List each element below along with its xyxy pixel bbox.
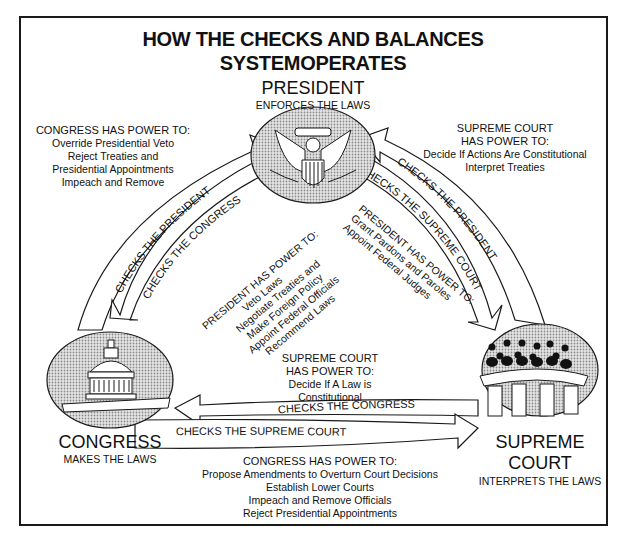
power-item: Decide If A Law is (250, 378, 410, 391)
court-seal (480, 324, 598, 416)
label-congress-checks-court: CHECKS THE SUPREME COURT (176, 425, 347, 438)
supreme-court-label: SUPREME COURT INTERPRETS THE LAWS (470, 432, 610, 487)
power-heading: SUPREME COURT (250, 352, 410, 365)
congress-role: MAKES THE LAWS (40, 453, 180, 465)
power-heading: HAS POWER TO: (250, 365, 410, 378)
power-heading: HAS POWER TO: (400, 135, 610, 148)
court-powers-over-congress: SUPREME COURT HAS POWER TO: Decide If A … (250, 352, 410, 404)
power-item: Override Presidential Veto (28, 137, 198, 150)
title-line-2: SYSTEMOPERATES (0, 51, 626, 75)
power-item: Impeach and Remove (28, 176, 198, 189)
diagram-title: HOW THE CHECKS AND BALANCES SYSTEMOPERAT… (0, 27, 626, 75)
court-powers-over-president: SUPREME COURT HAS POWER TO: Decide If Ac… (400, 122, 610, 174)
power-item: Reject Presidential Appointments (170, 507, 470, 520)
congress-label: CONGRESS MAKES THE LAWS (40, 432, 180, 465)
congress-powers-over-court: CONGRESS HAS POWER TO: Propose Amendment… (170, 455, 470, 520)
power-item: Reject Treaties and (28, 150, 198, 163)
court-role: INTERPRETS THE LAWS (470, 475, 610, 487)
court-name-line-1: SUPREME (470, 432, 610, 453)
power-item: Constitutional (250, 391, 410, 404)
president-name: PRESIDENT (213, 78, 413, 99)
power-heading: CONGRESS HAS POWER TO: (170, 455, 470, 468)
congress-seal (47, 332, 173, 428)
congress-powers-over-president: CONGRESS HAS POWER TO: Override Presiden… (28, 124, 198, 189)
power-heading: SUPREME COURT (400, 122, 610, 135)
power-item: Establish Lower Courts (170, 481, 470, 494)
court-name-line-2: COURT (470, 453, 610, 474)
president-role: ENFORCES THE LAWS (213, 99, 413, 111)
title-line-1: HOW THE CHECKS AND BALANCES (0, 27, 626, 51)
power-heading: CONGRESS HAS POWER TO: (28, 124, 198, 137)
power-item: Propose Amendments to Overturn Court Dec… (170, 468, 470, 481)
power-item: Interpret Treaties (400, 161, 610, 174)
power-item: Impeach and Remove Officials (170, 494, 470, 507)
president-label: PRESIDENT ENFORCES THE LAWS (213, 78, 413, 111)
congress-name: CONGRESS (40, 432, 180, 453)
power-item: Presidential Appointments (28, 163, 198, 176)
power-item: Decide If Actions Are Constitutional (400, 148, 610, 161)
president-seal (251, 107, 375, 203)
svg-text:CHECKS THE SUPREME COURT: CHECKS THE SUPREME COURT (176, 425, 347, 438)
